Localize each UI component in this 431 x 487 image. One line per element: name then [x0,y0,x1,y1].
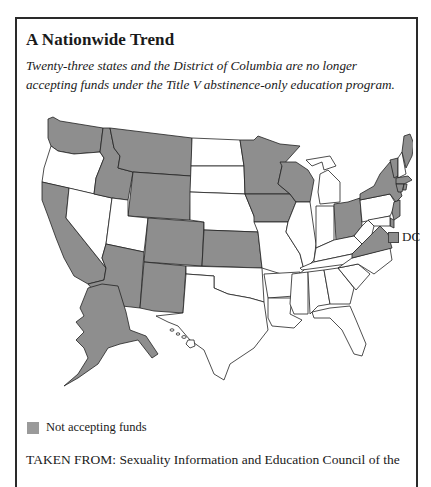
state-wa [48,117,103,154]
source-note: TAKEN FROM: Sexuality Information and Ed… [26,452,400,468]
state-wy [128,172,191,220]
dc-swatch [388,232,399,243]
state-ma [396,176,412,184]
figure-subtitle: Twenty-three states and the District of … [26,56,406,94]
state-nm [140,262,186,313]
state-co [144,218,204,266]
legend: Not accepting funds [27,420,147,435]
us-map [18,108,413,408]
state-ms [290,272,308,314]
state-mt [110,128,192,176]
state-sd [190,166,245,194]
legend-swatch-not-accepting [27,422,39,434]
state-ks [202,230,262,268]
figure-title: A Nationwide Trend [26,30,174,50]
state-de [390,218,394,228]
state-nd [191,138,244,166]
dc-marker: DC [388,229,420,245]
legend-label: Not accepting funds [46,420,147,435]
dc-label-text: DC [402,229,420,245]
state-ri [403,184,407,190]
state-fl [312,306,366,356]
